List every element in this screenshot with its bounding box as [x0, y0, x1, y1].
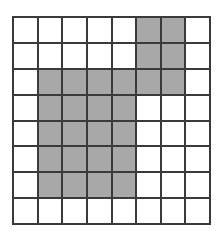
grid-cell-empty [38, 198, 63, 224]
grid-cell-empty [62, 43, 87, 69]
grid-body [13, 17, 210, 224]
grid-cell-empty [62, 17, 87, 43]
grid-cell-empty [161, 172, 186, 198]
grid-cell-filled [161, 69, 186, 95]
grid-cell-empty [185, 43, 210, 69]
grid-cell-empty [13, 172, 38, 198]
grid-cell-filled [62, 172, 87, 198]
grid-cell-filled [136, 17, 161, 43]
grid-cell-empty [13, 17, 38, 43]
grid-cell-empty [161, 95, 186, 121]
grid-cell-empty [13, 43, 38, 69]
grid-cell-filled [112, 95, 137, 121]
grid-cell-filled [38, 69, 63, 95]
grid-cell-filled [112, 146, 137, 172]
grid-cell-empty [112, 43, 137, 69]
grid-cell-empty [87, 198, 112, 224]
grid-cell-filled [62, 69, 87, 95]
grid-cell-empty [136, 146, 161, 172]
grid-cell-empty [136, 121, 161, 147]
grid-cell-filled [38, 121, 63, 147]
grid-cell-filled [136, 69, 161, 95]
grid-cell-empty [62, 198, 87, 224]
grid-cell-filled [87, 172, 112, 198]
grid-row [13, 17, 210, 43]
grid-table [12, 16, 211, 225]
grid-cell-empty [185, 95, 210, 121]
grid-cell-filled [112, 172, 137, 198]
grid-cell-filled [62, 95, 87, 121]
grid-cell-filled [38, 146, 63, 172]
grid-cell-empty [136, 172, 161, 198]
grid-cell-empty [13, 121, 38, 147]
grid-cell-empty [13, 95, 38, 121]
shaded-grid-figure [12, 16, 211, 225]
grid-cell-empty [112, 17, 137, 43]
grid-cell-empty [13, 69, 38, 95]
grid-row [13, 198, 210, 224]
grid-cell-filled [87, 121, 112, 147]
grid-cell-filled [87, 146, 112, 172]
grid-cell-filled [62, 146, 87, 172]
grid-cell-empty [112, 198, 137, 224]
grid-cell-filled [38, 172, 63, 198]
grid-row [13, 172, 210, 198]
grid-cell-filled [136, 43, 161, 69]
grid-cell-empty [38, 17, 63, 43]
grid-cell-empty [38, 43, 63, 69]
grid-cell-empty [185, 121, 210, 147]
grid-cell-empty [161, 198, 186, 224]
grid-row [13, 43, 210, 69]
grid-row [13, 69, 210, 95]
grid-cell-filled [38, 95, 63, 121]
grid-cell-filled [62, 121, 87, 147]
grid-cell-filled [112, 69, 137, 95]
grid-cell-empty [185, 198, 210, 224]
grid-cell-empty [136, 198, 161, 224]
grid-row [13, 121, 210, 147]
grid-cell-empty [87, 17, 112, 43]
grid-cell-empty [161, 146, 186, 172]
grid-row [13, 146, 210, 172]
grid-cell-empty [136, 95, 161, 121]
grid-cell-filled [87, 95, 112, 121]
grid-row [13, 95, 210, 121]
grid-cell-empty [87, 43, 112, 69]
grid-cell-filled [112, 121, 137, 147]
grid-cell-filled [87, 69, 112, 95]
grid-cell-empty [185, 69, 210, 95]
grid-cell-empty [13, 198, 38, 224]
grid-cell-empty [185, 146, 210, 172]
grid-cell-empty [13, 146, 38, 172]
grid-cell-empty [185, 17, 210, 43]
grid-cell-empty [185, 172, 210, 198]
grid-cell-empty [161, 121, 186, 147]
grid-cell-filled [161, 43, 186, 69]
grid-cell-filled [161, 17, 186, 43]
